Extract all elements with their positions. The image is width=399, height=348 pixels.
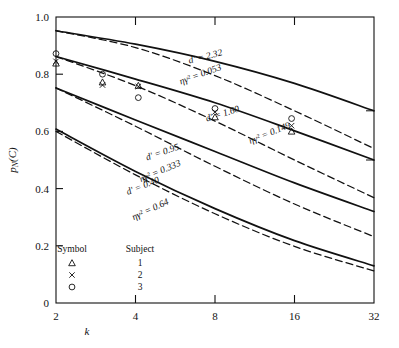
x-tick-label-32: 32 [369, 310, 380, 322]
annotation-group-7: ηγ² = 0.64 [130, 196, 170, 222]
series-curve-3 [56, 56, 374, 197]
y-axis-label-group: pN(C) [6, 147, 20, 174]
y-tick-label-1.0: 1.0 [35, 11, 49, 23]
legend-subject-3: 3 [138, 282, 143, 292]
series-curve-4 [56, 88, 374, 212]
data-point-triangle-subject1-4 [99, 79, 106, 85]
legend-marker-circle [69, 284, 75, 290]
y-tick-label-0.2: 0.2 [35, 240, 49, 252]
y-tick-label-0.6: 0.6 [35, 125, 49, 137]
y-tick-label-0.4: 0.4 [35, 183, 49, 195]
data-point-circle-subject3-8 [135, 95, 141, 101]
figure-root: 00.20.40.60.81.02481632kpN(C)d' = 2.32ηγ… [0, 0, 399, 348]
annotation-label-1: ηγ² = 0.053 [178, 62, 223, 86]
annotation-label-2: d' = 1.60 [204, 104, 240, 124]
y-tick-label-0: 0 [44, 297, 50, 309]
legend-marker-triangle [69, 260, 76, 266]
plot-frame [56, 17, 374, 303]
annotation-label-3: ηγ² = 0.149 [247, 120, 292, 146]
x-tick-label-4: 4 [133, 310, 139, 322]
data-point-circle-subject3-12 [289, 116, 295, 122]
y-tick-label-0.8: 0.8 [35, 68, 49, 80]
annotation-group-1: ηγ² = 0.053 [178, 62, 223, 86]
data-point-circle-subject3-3 [100, 71, 106, 77]
series-curve-6 [56, 129, 374, 266]
x-tick-label-16: 16 [289, 310, 301, 322]
legend-subject-2: 2 [138, 270, 143, 280]
legend-group: SymbolSubject123 [57, 244, 154, 292]
legend-subject-1: 1 [138, 258, 143, 268]
x-tick-label-2: 2 [53, 310, 59, 322]
y-axis-label: pN(C) [6, 147, 20, 174]
annotation-group-3: ηγ² = 0.149 [247, 120, 292, 146]
annotation-label-7: ηγ² = 0.64 [130, 196, 170, 222]
chart-canvas: 00.20.40.60.81.02481632kpN(C)d' = 2.32ηγ… [0, 0, 399, 348]
legend-header-subject: Subject [126, 244, 155, 254]
annotation-group-2: d' = 1.60 [204, 104, 240, 124]
x-axis-label: k [85, 325, 91, 337]
x-tick-label-8: 8 [212, 310, 218, 322]
legend-header-symbol: Symbol [57, 244, 87, 254]
series-curve-7 [56, 131, 374, 271]
